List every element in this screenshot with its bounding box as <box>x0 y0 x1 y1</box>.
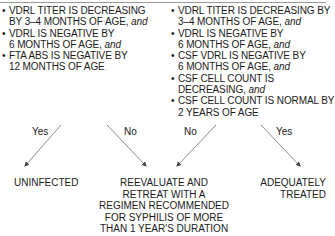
branch-label-yes: Yes <box>32 126 48 137</box>
outcome-reevaluate-retreat: REEVALUATE AND RETREAT WITH A REGIMEN RE… <box>99 177 229 235</box>
outcome-uninfected: UNINFECTED <box>14 177 78 189</box>
outcome-adequately-treated: ADEQUATELY TREATED <box>256 177 326 200</box>
branch-label-yes: Yes <box>276 126 292 137</box>
branch-label-no: No <box>124 126 137 137</box>
branch-label-no: No <box>184 126 197 137</box>
